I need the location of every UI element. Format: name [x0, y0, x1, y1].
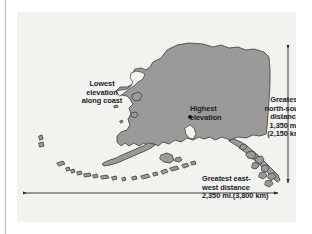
highest-elevation-label: Highest elevation	[190, 105, 248, 122]
aleutian-island-15	[182, 163, 189, 168]
lowest-elevation-label: Lowest elevation along coast	[69, 80, 135, 106]
aleutian-island-11	[141, 174, 150, 179]
aleutian-island-04	[77, 171, 82, 175]
kodiak-island-small	[175, 157, 182, 162]
aleutian-island-03	[71, 169, 75, 173]
aleutian-island-16	[191, 161, 196, 165]
aleutian-island-08	[112, 176, 117, 180]
alaska-map-panel: Lowest elevation along coast Highest ele…	[17, 12, 296, 222]
aleutian-island-12	[153, 172, 158, 176]
aleutian-island-07	[101, 175, 109, 179]
panhandle-island-03	[252, 162, 259, 169]
east-west-distance-label: Greatest east- west distance 2,350 mi.(3…	[202, 175, 288, 201]
aleutian-island-01	[57, 161, 65, 166]
pribilof-island-b	[120, 120, 123, 123]
attu-island-a	[39, 135, 43, 140]
aleutian-island-02	[66, 167, 70, 171]
alaska-peninsula	[102, 143, 155, 166]
aleutian-island-10	[132, 176, 137, 180]
aleutian-island-09	[122, 177, 126, 181]
kodiak-island	[160, 153, 174, 163]
page-margin-rule	[5, 0, 6, 234]
aleutian-island-14	[170, 166, 179, 171]
aleutian-island-05	[84, 173, 91, 177]
aleutian-island-06	[93, 174, 98, 178]
north-south-distance-label: Greatest north-south distance 1,350 mi. …	[257, 96, 296, 139]
aleutian-island-13	[161, 169, 168, 174]
attu-island-b	[39, 142, 44, 147]
